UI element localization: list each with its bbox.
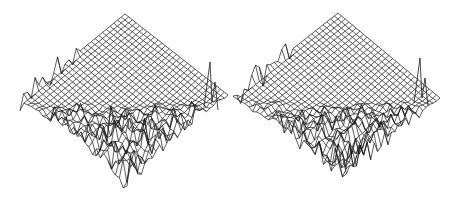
wireframe-surface-left [0, 0, 233, 203]
wireframe-surface-right [233, 0, 466, 203]
mesh-lines [233, 13, 440, 177]
surface-plot-left [0, 0, 233, 203]
mesh-lines [20, 14, 228, 188]
surface-plot-right [233, 0, 466, 203]
